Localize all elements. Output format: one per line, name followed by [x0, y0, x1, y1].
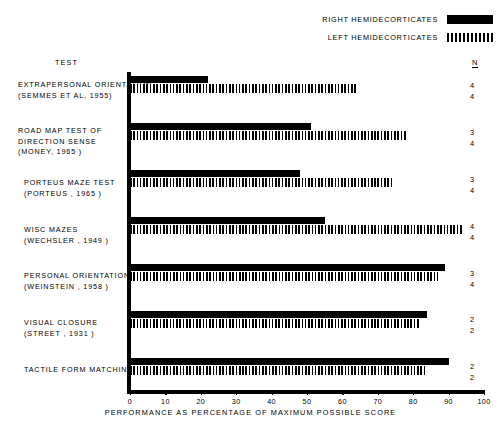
x-tick-label-60: 60: [338, 397, 347, 406]
bar-right-hemidecorticates-5: [130, 264, 445, 271]
row-label-road-map-test: ROAD MAP TEST OF DIRECTION SENSE (MONEY,…: [18, 126, 102, 158]
row-label-tactile-form-matching: TACTILE FORM MATCHING: [24, 365, 134, 376]
bar-right-hemidecorticates-4: [130, 217, 325, 224]
n-column-header: N: [472, 58, 478, 68]
x-tick-0: [130, 390, 131, 395]
bar-right-hemidecorticates-1: [130, 76, 208, 83]
x-tick-70: [378, 390, 379, 395]
x-tick-label-90: 90: [444, 397, 453, 406]
legend-item-right: RIGHT HEMIDECORTICATES: [193, 10, 493, 28]
x-axis-ticks: [130, 390, 484, 396]
chart-figure: RIGHT HEMIDECORTICATES LEFT HEMIDECORTIC…: [0, 0, 501, 435]
x-tick-label-30: 30: [232, 397, 241, 406]
x-tick-label-50: 50: [303, 397, 312, 406]
x-tick-60: [342, 390, 343, 395]
bar-group-1: [130, 76, 484, 100]
bar-right-hemidecorticates-3: [130, 170, 300, 177]
bar-group-5: [130, 264, 484, 288]
legend-label-right: RIGHT HEMIDECORTICATES: [322, 15, 438, 24]
x-tick-40: [272, 390, 273, 395]
row-label-porteus-maze-test: PORTEUS MAZE TEST (PORTEUS , 1965 ): [24, 178, 115, 199]
legend-swatch-left-icon: [447, 33, 493, 42]
bar-right-hemidecorticates-6: [130, 311, 427, 318]
bar-group-6: [130, 311, 484, 335]
x-tick-label-70: 70: [373, 397, 382, 406]
bar-left-hemidecorticates-6: [130, 319, 420, 328]
test-column-header: TEST: [55, 58, 78, 67]
x-tick-label-0: 0: [128, 397, 132, 406]
legend-swatch-right-icon: [447, 15, 493, 24]
x-tick-10: [165, 390, 166, 395]
row-label-wisc-mazes: WISC MAZES (WECHSLER , 1949 ): [24, 225, 109, 246]
x-axis-title: PERFORMANCE AS PERCENTAGE OF MAXIMUM POS…: [0, 408, 501, 417]
plot-area: 0102030405060708090100: [130, 72, 484, 394]
row-label-visual-closure: VISUAL CLOSURE (STREET , 1931 ): [24, 318, 98, 339]
legend-label-left: LEFT HEMIDECORTICATES: [328, 33, 438, 42]
legend-item-left: LEFT HEMIDECORTICATES: [193, 28, 493, 46]
bar-group-7: [130, 358, 484, 382]
bar-group-3: [130, 170, 484, 194]
x-tick-label-40: 40: [267, 397, 276, 406]
legend: RIGHT HEMIDECORTICATES LEFT HEMIDECORTIC…: [193, 10, 493, 46]
bar-left-hemidecorticates-7: [130, 366, 427, 375]
x-tick-label-80: 80: [409, 397, 418, 406]
row-label-personal-orientation: PERSONAL ORIENTATION (WEINSTEIN , 1958 ): [24, 271, 130, 292]
bar-group-4: [130, 217, 484, 241]
x-tick-20: [201, 390, 202, 395]
x-tick-100: [484, 390, 485, 395]
x-tick-label-10: 10: [161, 397, 170, 406]
bar-left-hemidecorticates-1: [130, 84, 357, 93]
bar-right-hemidecorticates-7: [130, 358, 449, 365]
bar-group-2: [130, 123, 484, 147]
x-tick-50: [307, 390, 308, 395]
x-tick-label-100: 100: [477, 397, 490, 406]
x-tick-label-20: 20: [196, 397, 205, 406]
bar-left-hemidecorticates-2: [130, 131, 406, 140]
x-tick-30: [236, 390, 237, 395]
x-tick-90: [449, 390, 450, 395]
x-tick-80: [413, 390, 414, 395]
bar-left-hemidecorticates-5: [130, 272, 438, 281]
bar-left-hemidecorticates-3: [130, 178, 392, 187]
bar-right-hemidecorticates-2: [130, 123, 311, 130]
bar-left-hemidecorticates-4: [130, 225, 463, 234]
